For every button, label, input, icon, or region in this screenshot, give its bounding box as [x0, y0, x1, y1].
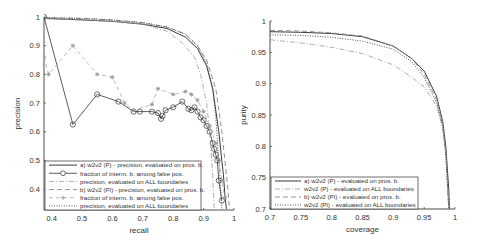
y-axis-label: precision [13, 97, 22, 129]
star-marker [123, 101, 127, 105]
x-tick-label: 0.95 [417, 213, 432, 222]
x-axis-label: recall [129, 226, 148, 235]
y-tick-label: 0.9 [30, 41, 40, 50]
x-tick-label: 0.85 [355, 213, 370, 222]
x-tick-label: 0.9 [388, 213, 398, 222]
star-marker [150, 102, 154, 106]
x-tick-label: 0.5 [77, 214, 87, 223]
y-tick-label: 0.85 [251, 111, 266, 120]
legend-entry: b) w2v2 (PI) - evaluated on pros. b. [304, 193, 401, 200]
x-tick-label: 0.9 [198, 214, 208, 223]
y-tick-label: 0.95 [251, 48, 266, 57]
star-marker [223, 196, 227, 200]
y-tick-label: 0.8 [256, 142, 266, 151]
x-tick-label: 0.75 [294, 213, 309, 222]
y-tick-label: 0.9 [256, 79, 266, 88]
x-tick-label: 0.6 [107, 214, 117, 223]
star-marker [202, 110, 206, 114]
purity-coverage-chart: 0.70.750.80.850.90.9510.70.750.80.850.90… [239, 17, 457, 235]
legend-entry: a) w2v2 (P) - precision, evaluated on pr… [80, 161, 203, 168]
precision-recall-chart: 0.40.50.60.70.80.910.40.50.60.70.80.91re… [13, 13, 236, 236]
y-tick-label: 0.5 [30, 156, 40, 165]
star-marker [183, 90, 187, 94]
y-tick-label: 0.75 [251, 173, 266, 182]
y-tick-label: 1 [36, 13, 40, 22]
y-axis-label: purity [239, 105, 248, 125]
star-marker [156, 87, 160, 91]
legend-entry: fraction of interm. b. among false pos. [80, 170, 184, 177]
figure: 0.40.50.60.70.80.910.40.50.60.70.80.91re… [0, 0, 477, 241]
y-tick-label: 0.8 [30, 70, 40, 79]
legend-entry: b) w2v2 (PI) - precision, evaluated on p… [80, 186, 205, 193]
y-tick-label: 0.4 [30, 185, 40, 194]
legend-entry: fraction of interm. b. among false pos. [80, 194, 184, 201]
star-marker [71, 44, 75, 48]
star-marker [208, 124, 212, 128]
star-marker [189, 92, 193, 96]
star-marker [196, 98, 200, 102]
star-marker [132, 108, 136, 112]
legend: a) w2v2 (P) - evaluated on pros. b.w2v2 … [271, 177, 418, 209]
x-tick-label: 0.8 [168, 214, 178, 223]
legend-entry: precision, evaluated on ALL boundaries [80, 178, 188, 185]
legend-entry: a) w2v2 (P) - evaluated on pros. b. [304, 177, 399, 184]
x-tick-label: 0.4 [46, 214, 56, 223]
y-tick-label: 0.7 [30, 99, 40, 108]
x-tick-label: 0.7 [138, 214, 148, 223]
y-tick-label: 0.6 [30, 127, 40, 136]
x-tick-label: 1 [453, 213, 457, 222]
star-marker [171, 92, 175, 96]
legend-entry: precision, evaluated on ALL boundaries [80, 202, 188, 209]
star-marker [110, 75, 114, 79]
x-tick-label: 1 [232, 214, 236, 223]
y-tick-label: 0.7 [256, 205, 266, 214]
star-marker [47, 72, 51, 76]
x-axis-label: coverage [346, 225, 379, 234]
legend: a) w2v2 (P) - precision, evaluated on pr… [45, 161, 205, 210]
x-tick-label: 0.7 [265, 213, 275, 222]
star-marker [95, 72, 99, 76]
legend-entry: w2v2 (P) - evaluated on ALL boundaries [303, 185, 414, 192]
legend-entry: w2v2 (PI) - evaluated on ALL boundaries [303, 201, 416, 208]
x-tick-label: 0.8 [326, 213, 336, 222]
y-tick-label: 1 [262, 17, 266, 26]
star-marker [42, 55, 46, 59]
